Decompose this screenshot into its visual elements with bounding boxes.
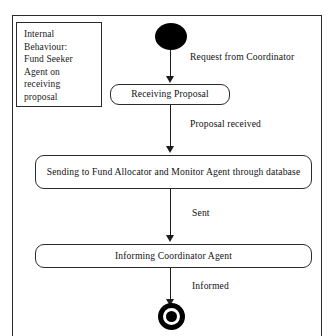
final-node xyxy=(158,303,185,330)
initial-node xyxy=(155,23,187,50)
arrowhead-icon xyxy=(166,76,174,83)
transition-label-informed: Informed xyxy=(192,280,229,291)
diagram-canvas: Internal Behaviour: Fund Seeker Agent on… xyxy=(0,0,334,336)
note-text: Internal Behaviour: Fund Seeker Agent on… xyxy=(24,28,101,104)
transition-label-request: Request from Coordinator xyxy=(190,51,294,62)
transition-label-sent: Sent xyxy=(192,207,210,218)
activity-label: Sending to Fund Allocator and Monitor Ag… xyxy=(41,166,307,178)
arrowhead-icon xyxy=(166,235,174,242)
arrowhead-icon xyxy=(166,146,174,153)
transition-label-proposal-received: Proposal received xyxy=(190,118,261,129)
activity-receiving-proposal[interactable]: Receiving Proposal xyxy=(110,84,230,105)
transition-line-sent xyxy=(170,189,171,237)
transition-line-proposal-received xyxy=(170,105,171,148)
note-box: Internal Behaviour: Fund Seeker Agent on… xyxy=(16,22,102,107)
transition-line-request xyxy=(170,50,171,78)
final-node-core xyxy=(166,311,177,322)
activity-sending-to-fund-allocator[interactable]: Sending to Fund Allocator and Monitor Ag… xyxy=(35,155,312,189)
activity-label: Receiving Proposal xyxy=(125,88,215,100)
activity-label: Informing Coordinator Agent xyxy=(109,250,238,262)
activity-informing-coordinator-agent[interactable]: Informing Coordinator Agent xyxy=(35,244,312,268)
